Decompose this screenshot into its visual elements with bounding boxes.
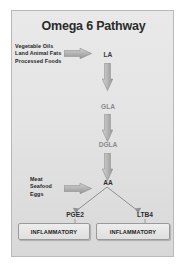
block-arrow-down-dgla-to-aa-icon xyxy=(102,153,113,181)
block-arrow-right-to-la-icon xyxy=(64,48,92,59)
source-line-vegetable-oils: Vegetable Oils xyxy=(15,43,61,50)
outcome-label-ltb4: INFLAMMATORY xyxy=(110,229,156,235)
block-arrow-down-la-to-gla-icon xyxy=(102,63,113,91)
omega6-pathway-diagram: Omega 6 Pathway Vegetable Oils Land Anim… xyxy=(11,10,174,257)
diagram-title: Omega 6 Pathway xyxy=(12,19,174,33)
node-ltb4: LTB4 xyxy=(130,211,160,218)
source-line-land-animal-fats: Land Animal Fats xyxy=(15,50,61,57)
node-la: LA xyxy=(96,51,120,58)
source-line-eggs: Eggs xyxy=(30,191,52,198)
node-pge2: PGE2 xyxy=(60,211,90,218)
outcome-box-ltb4: INFLAMMATORY xyxy=(96,223,170,240)
dietary-sources-la-group: Vegetable Oils Land Animal Fats Processe… xyxy=(15,43,61,65)
node-aa: AA xyxy=(96,179,120,186)
outcome-label-pge2: INFLAMMATORY xyxy=(31,229,77,235)
node-dgla: DGLA xyxy=(92,141,124,148)
block-arrow-down-gla-to-dgla-icon xyxy=(102,114,113,142)
source-line-processed-foods: Processed Foods xyxy=(15,58,61,65)
node-gla: GLA xyxy=(96,103,120,110)
dietary-sources-aa-group: Meat Seafood Eggs xyxy=(30,176,52,198)
source-line-meat: Meat xyxy=(30,176,52,183)
outcome-box-pge2: INFLAMMATORY xyxy=(18,223,90,240)
source-line-seafood: Seafood xyxy=(30,183,52,190)
